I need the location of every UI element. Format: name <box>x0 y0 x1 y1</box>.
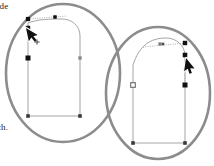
path-left-anchor-bottom-left[interactable] <box>26 114 30 118</box>
path-right-anchor-right-mid[interactable] <box>183 83 188 88</box>
pen-tool-cursor[interactable] <box>184 58 196 74</box>
arch-path-right[interactable] <box>133 38 185 143</box>
path-right-anchor-top-mid[interactable] <box>158 42 161 45</box>
path-left-anchor-bottom-right[interactable] <box>78 114 82 118</box>
path-left-anchor-left-mid[interactable] <box>26 56 31 61</box>
left-callout-oval <box>6 4 120 142</box>
path-right-anchor-right-corner[interactable] <box>183 53 188 58</box>
path-left-anchor-top-left[interactable] <box>26 17 30 21</box>
vector-graphics-layer <box>0 0 214 166</box>
path-left-anchor-top-mid[interactable] <box>53 15 56 18</box>
path-right-anchor-left-mid[interactable] <box>131 83 136 88</box>
path-right-anchor-bottom-right[interactable] <box>183 141 187 145</box>
right-callout-oval <box>106 27 210 159</box>
callout-ovals-group <box>6 4 210 159</box>
control-handle-right-midpoint[interactable] <box>162 43 165 46</box>
control-handle-left-line <box>28 16 67 19</box>
path-left-anchor-right-mid[interactable] <box>78 56 81 59</box>
pen-tool-cursor-glyph <box>184 58 196 74</box>
illustration-canvas: ode ch. <box>0 0 214 166</box>
path-right-anchor-top-right[interactable] <box>183 41 187 45</box>
path-right-anchor-bottom-left[interactable] <box>131 141 135 145</box>
